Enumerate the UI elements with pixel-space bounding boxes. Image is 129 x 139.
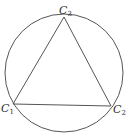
circumcircle xyxy=(5,14,123,132)
label-c1: C1 xyxy=(1,102,14,116)
inscribed-triangle xyxy=(13,17,111,106)
label-c2: C2 xyxy=(113,103,126,117)
label-c3: C3 xyxy=(59,4,72,18)
diagram-canvas: C1 C2 C3 xyxy=(0,0,129,139)
